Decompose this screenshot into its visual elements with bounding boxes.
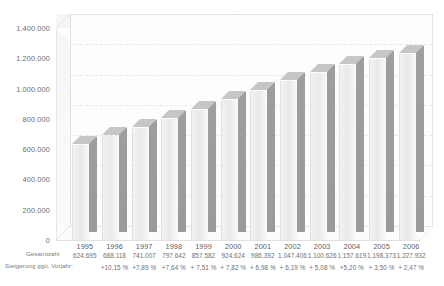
bar-front-face <box>339 65 357 240</box>
bar-2005 <box>369 51 394 240</box>
bar-front-face <box>72 145 90 240</box>
y-axis-tick-label: 200.000 <box>23 205 50 214</box>
bar-top-face <box>280 72 305 81</box>
y-axis-tick-label: 1.400.000 <box>16 24 50 33</box>
bar-chart-figure: 0200.000400.000600.000800.0001.000.0001.… <box>0 0 444 286</box>
table-cell-total: 1.227.932 <box>389 252 433 259</box>
bar-top-face <box>102 127 127 136</box>
bar-top-face <box>250 82 275 91</box>
y-axis-tick-label: 600.000 <box>23 145 50 154</box>
bar-side-face <box>297 73 305 232</box>
bar-top-face <box>369 50 394 59</box>
bar-top-face <box>191 101 216 110</box>
bar-1995 <box>72 137 97 240</box>
bar-top-face <box>339 56 364 65</box>
bar-side-face <box>327 65 335 232</box>
bar-side-face <box>178 111 186 232</box>
y-axis-tick-label: 800.000 <box>23 114 50 123</box>
bar-front-face <box>221 100 239 240</box>
bar-1996 <box>102 128 127 240</box>
bar-2001 <box>250 83 275 240</box>
bar-front-face <box>369 59 387 240</box>
y-axis-tick-label: 1.000.000 <box>16 84 50 93</box>
bar-top-face <box>399 45 424 54</box>
bars-layer <box>56 14 432 240</box>
bar-2006 <box>399 46 424 240</box>
bar-side-face <box>386 51 394 232</box>
bar-1997 <box>132 120 157 240</box>
data-table: Gesamtzahl Steigerung ggü. Vorjahr: 1995… <box>0 240 444 286</box>
bar-side-face <box>238 92 246 232</box>
bar-top-face <box>161 110 186 119</box>
bar-side-face <box>89 137 97 232</box>
bar-2003 <box>310 65 335 240</box>
bar-2004 <box>339 57 364 240</box>
bar-top-face <box>72 136 97 145</box>
bar-top-face <box>132 119 157 128</box>
bar-top-face <box>310 64 335 73</box>
bar-front-face <box>102 136 120 240</box>
bar-2002 <box>280 73 305 240</box>
bar-2000 <box>221 92 246 240</box>
bar-front-face <box>191 110 209 240</box>
bar-top-face <box>221 91 246 100</box>
y-axis-tick-label: 400.000 <box>23 175 50 184</box>
bar-front-face <box>310 73 328 240</box>
bar-side-face <box>149 120 157 232</box>
bar-front-face <box>161 119 179 240</box>
bar-side-face <box>119 128 127 232</box>
bar-front-face <box>250 91 268 240</box>
y-axis-tick-label: 1.200.000 <box>16 54 50 63</box>
bar-side-face <box>356 57 364 232</box>
row-label-growth: Steigerung ggü. Vorjahr: <box>5 262 73 269</box>
bar-front-face <box>280 81 298 240</box>
bar-1999 <box>191 102 216 240</box>
bar-side-face <box>208 102 216 232</box>
bar-side-face <box>416 46 424 232</box>
bar-1998 <box>161 111 186 240</box>
table-cell-growth: + 2,47 % <box>389 264 433 271</box>
bar-front-face <box>399 54 417 240</box>
bar-front-face <box>132 128 150 240</box>
table-header-year: 2006 <box>391 242 431 251</box>
bar-side-face <box>267 83 275 232</box>
row-label-total: Gesamtzahl <box>26 250 60 257</box>
